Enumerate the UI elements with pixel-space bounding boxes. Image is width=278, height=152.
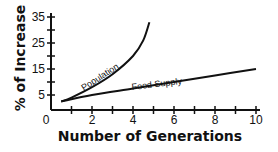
x-tick-label: 0 (43, 113, 50, 127)
y-tick-label: 35 (32, 10, 46, 24)
x-axis-label: Number of Generations (58, 128, 242, 144)
x-tick-label: 4 (130, 113, 137, 127)
chart: 02468105152535 PopulationFood Supply Num… (0, 0, 278, 152)
plot-area: PopulationFood Supply (61, 22, 256, 101)
food-supply-label: Food Supply (131, 76, 183, 92)
y-tick-label: 5 (38, 88, 45, 102)
population-label: Population (79, 61, 120, 93)
x-tick-label: 8 (212, 113, 219, 127)
y-axis-label: % of Increase (12, 5, 28, 112)
y-tick-label: 25 (32, 36, 46, 50)
x-tick-label: 10 (249, 113, 263, 127)
x-tick-label: 6 (171, 113, 178, 127)
y-tick-label: 15 (32, 62, 46, 76)
x-tick-label: 2 (89, 113, 96, 127)
